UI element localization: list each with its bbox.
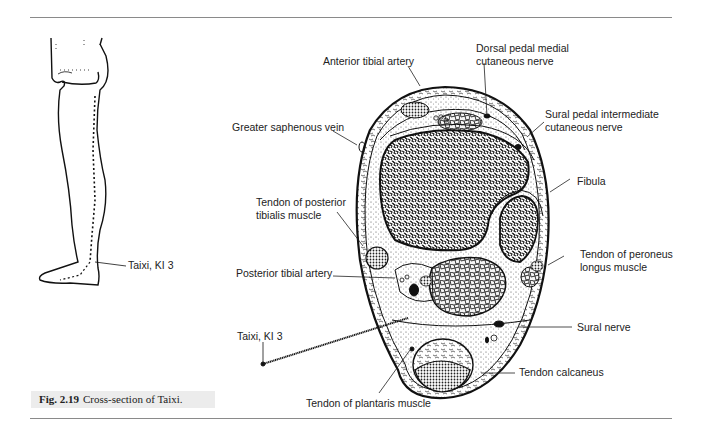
label-anterior-tibial-artery: Anterior tibial artery bbox=[323, 55, 414, 68]
label-taixi-leg: Taixi, KI 3 bbox=[128, 259, 174, 272]
label-dorsal-pedal-medial-nerve: Dorsal pedal medial cutaneous nerve bbox=[476, 42, 569, 67]
label-line: cutaneous nerve bbox=[545, 121, 659, 134]
label-line: Sural pedal intermediate bbox=[545, 108, 659, 121]
figure-caption: Fig. 2.19Cross-section of Taixi. bbox=[31, 391, 215, 408]
label-tendon-posterior-tibialis: Tendon of posterior tibialis muscle bbox=[256, 196, 346, 221]
label-line: longus muscle bbox=[580, 261, 673, 274]
label-taixi-needle: Taixi, KI 3 bbox=[237, 330, 283, 343]
cross-section bbox=[357, 87, 549, 398]
label-line: cutaneous nerve bbox=[476, 55, 569, 68]
label-fibula: Fibula bbox=[577, 175, 606, 188]
figure-caption-text: Cross-section of Taixi. bbox=[83, 393, 183, 405]
label-line: Tendon of posterior bbox=[256, 196, 346, 209]
label-line: tibialis muscle bbox=[256, 209, 346, 222]
label-line: Tendon of peroneus bbox=[580, 248, 673, 261]
label-tendon-calcaneus: Tendon calcaneus bbox=[519, 366, 604, 379]
label-sural-pedal-intermediate-nerve: Sural pedal intermediate cutaneous nerve bbox=[545, 108, 659, 133]
figure-number: Fig. 2.19 bbox=[39, 393, 79, 405]
leg-illustration bbox=[40, 38, 126, 285]
label-line: Dorsal pedal medial bbox=[476, 42, 569, 55]
label-greater-saphenous-vein: Greater saphenous vein bbox=[232, 121, 344, 134]
label-tendon-peroneus-longus: Tendon of peroneus longus muscle bbox=[580, 248, 673, 273]
label-tendon-plantaris: Tendon of plantaris muscle bbox=[306, 397, 431, 410]
label-posterior-tibial-artery: Posterior tibial artery bbox=[236, 267, 332, 280]
label-sural-nerve: Sural nerve bbox=[577, 321, 631, 334]
